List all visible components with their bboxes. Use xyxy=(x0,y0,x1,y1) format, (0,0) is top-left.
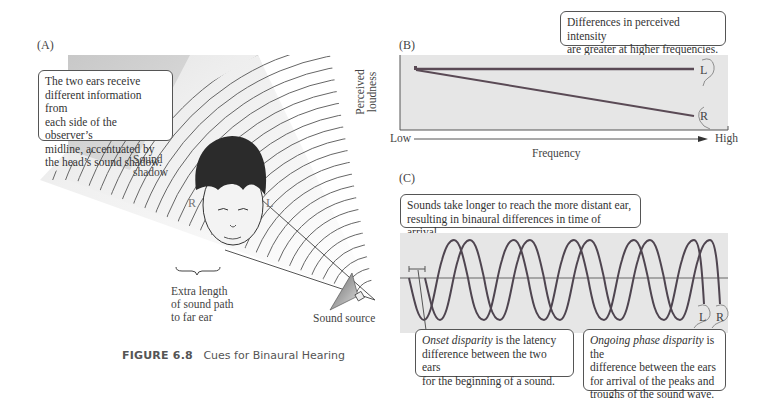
svg-text:R: R xyxy=(700,109,708,123)
ongoing-disparity-callout: Ongoing phase disparity is the differenc… xyxy=(583,329,726,391)
figure-number: FIGURE 6.8 xyxy=(122,349,193,362)
panel-c-label: (C) xyxy=(399,171,415,186)
chart-background xyxy=(400,55,728,130)
onset-disparity-callout: Onset disparity is the latency differenc… xyxy=(415,329,574,377)
panel-b-callout: Differences in perceived intensity are g… xyxy=(560,11,726,46)
x-axis-title: Frequency xyxy=(532,147,581,160)
figure-title: Cues for Binaural Hearing xyxy=(203,349,345,362)
waveform-chart: L R xyxy=(380,230,773,340)
figure-caption: FIGURE 6.8 Cues for Binaural Hearing xyxy=(122,349,345,362)
panel-a-callout: The two ears receive different informati… xyxy=(38,70,173,141)
panel-a-ear-right-label: R xyxy=(188,196,196,211)
sound-shadow-label: Sound shadow xyxy=(133,153,168,179)
ongoing-term: Ongoing phase disparity xyxy=(590,334,704,346)
onset-term: Onset disparity xyxy=(422,334,493,346)
extra-length-label: Extra length of sound path to far ear xyxy=(171,285,234,324)
x-axis-low-label: Low xyxy=(390,132,411,145)
extra-length-bracket xyxy=(176,267,220,275)
x-axis-high-label: High xyxy=(715,132,738,145)
panel-c-callout: Sounds take longer to reach the more dis… xyxy=(400,194,641,228)
svg-text:L: L xyxy=(700,63,707,77)
svg-text:L: L xyxy=(699,310,706,324)
svg-text:R: R xyxy=(716,310,724,324)
sound-source-label: Sound source xyxy=(313,312,375,325)
panel-a-ear-left-label: L xyxy=(266,196,273,211)
